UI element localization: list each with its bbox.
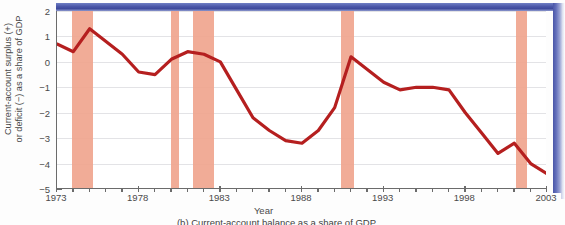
y-axis-tick-label: −2 — [39, 107, 50, 118]
x-axis-minor-tick — [366, 188, 367, 192]
y-axis-title-line-1: Current-account surplus (+) — [3, 0, 14, 169]
plot-area — [56, 11, 546, 189]
y-axis-tick-label: −4 — [39, 158, 50, 169]
x-axis-minor-tick — [350, 188, 351, 192]
x-axis-tick-label: 2003 — [535, 192, 556, 203]
x-axis-minor-tick — [432, 188, 433, 192]
x-axis-minor-tick — [497, 188, 498, 192]
figure-container: Current-account surplus (+) or deficit (… — [0, 0, 565, 225]
x-axis-minor-tick — [399, 188, 400, 192]
scanned-page-edge-top — [56, 3, 562, 11]
x-axis-minor-tick — [105, 188, 106, 192]
figure-caption: (b) Current-account balance as a share o… — [0, 217, 565, 225]
x-axis-tick-label: 1983 — [209, 192, 230, 203]
x-axis-minor-tick — [170, 188, 171, 192]
x-axis-tick-label: 1978 — [127, 192, 148, 203]
x-axis-minor-tick — [334, 188, 335, 192]
x-axis-minor-tick — [72, 188, 73, 192]
x-axis-tick-label: 1973 — [45, 192, 66, 203]
x-axis-minor-tick — [252, 188, 253, 192]
y-axis-tick-label: 0 — [45, 56, 50, 67]
x-axis-minor-tick — [530, 188, 531, 192]
x-axis-minor-tick — [317, 188, 318, 192]
x-axis-tick-label: 1998 — [454, 192, 475, 203]
figure-caption-text: (b) Current-account balance as a share o… — [177, 217, 376, 225]
series-line — [57, 29, 546, 174]
x-axis-minor-tick — [89, 188, 90, 192]
x-axis-title-text: Year — [254, 205, 273, 216]
x-axis-minor-tick — [481, 188, 482, 192]
x-axis-tick-label: 1993 — [372, 192, 393, 203]
x-axis-minor-tick — [154, 188, 155, 192]
x-axis-title: Year — [0, 205, 565, 216]
x-axis-minor-tick — [203, 188, 204, 192]
y-axis-tick-label: −3 — [39, 133, 50, 144]
y-axis-tick-label: 1 — [45, 31, 50, 42]
x-axis-minor-tick — [415, 188, 416, 192]
x-axis-minor-tick — [448, 188, 449, 192]
x-axis-tick-labels: 1973197819831988199319982003 — [56, 192, 546, 205]
x-axis-tick-label: 1988 — [290, 192, 311, 203]
series-layer — [57, 11, 546, 189]
x-axis-minor-tick — [268, 188, 269, 192]
x-axis-minor-tick — [513, 188, 514, 192]
scanned-page-edge-right — [553, 3, 562, 193]
x-axis-minor-tick — [236, 188, 237, 192]
x-axis-minor-tick — [187, 188, 188, 192]
y-axis-tick-labels: 210−1−2−3−4−5 — [20, 11, 50, 189]
y-axis-tick-label: 2 — [45, 6, 50, 17]
y-axis-tick-label: −1 — [39, 82, 50, 93]
x-axis-minor-tick — [121, 188, 122, 192]
x-axis-minor-tick — [285, 188, 286, 192]
